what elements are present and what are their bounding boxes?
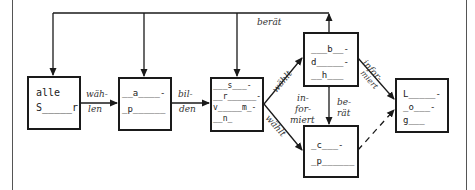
box-text-line: _c___- — [311, 139, 344, 151]
edge-label-waehlen-cont: len — [88, 104, 102, 115]
box-schulleitung: L_____- _o___- g___ — [395, 78, 449, 133]
box-text-line: _o___- — [403, 101, 436, 113]
box-text-line: L_____- — [403, 88, 441, 100]
box-text-line: _p______ — [122, 103, 165, 115]
edge-label-bilden-cont: den — [179, 104, 196, 115]
edge-label-bilden: bil- — [178, 89, 193, 100]
edge-label-informiert-left-3: miert — [290, 115, 315, 126]
box-klassensprecher: __a____- _p______ — [118, 77, 172, 131]
box-text-line: g___ — [403, 114, 425, 126]
box-text-line: __n_ — [213, 114, 232, 124]
box-schulkonferenz: _c___- _p______ — [303, 125, 359, 178]
box-text-line: d_____- — [311, 56, 349, 68]
box-text-line: alle — [36, 87, 60, 99]
box-beratungslehrer: ___b__- d_____- __h___ — [303, 32, 359, 87]
edge-label-waehlen: wäh- — [86, 89, 108, 100]
box-text-line: _p______ — [311, 155, 354, 167]
box-text-line: __r______- — [213, 92, 261, 102]
edge-label-beraet-mid-2: rät — [337, 108, 350, 119]
box-text-line: ___s___- — [213, 81, 252, 91]
box-text-line: __h___ — [311, 69, 344, 81]
box-alle-schueler: alle S_____r — [27, 76, 81, 130]
edge-label-informiert-left: in- — [297, 93, 309, 104]
box-text-line: __a____- — [122, 87, 165, 99]
edge-label-beraet-mid: be- — [337, 97, 351, 108]
edge-label-beraet-top: berät — [257, 17, 281, 28]
box-text-line: S_____r — [36, 102, 78, 114]
box-text-line: ___b__- — [311, 43, 349, 55]
box-schuelervertretung: ___s___- __r______- v_____m_- __n_ — [210, 77, 264, 132]
box-text-line: v_____m_- — [213, 103, 256, 113]
edge-label-informiert-left-2: for- — [295, 104, 311, 115]
